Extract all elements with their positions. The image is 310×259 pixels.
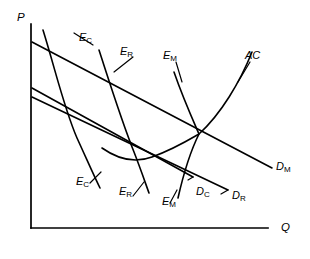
demand-curve-dc (32, 88, 193, 177)
label-dm-right: DM (276, 161, 291, 174)
label-ac-top: AC (245, 50, 260, 63)
leader-ac-top (238, 62, 250, 82)
x-axis-label: Q (281, 222, 290, 234)
label-er-top: ER (120, 46, 133, 59)
label-dc-bottom: DC (196, 186, 210, 199)
label-ec-top: EC (79, 32, 92, 45)
label-em-top: EM (163, 50, 177, 63)
equilibrium-curve-er (99, 50, 149, 193)
label-er-bottom: ER (119, 186, 132, 199)
average-cost-curve (102, 52, 252, 160)
plot-canvas (0, 0, 310, 259)
y-axis-label: P (17, 12, 25, 24)
label-em-bottom: EM (162, 196, 176, 209)
economics-diagram: P Q EC ER EM AC DM DC DR EC ER EM (0, 0, 310, 259)
demand-curve-dm (32, 42, 272, 168)
equilibrium-curve-em (174, 72, 199, 198)
label-dr-bottom: DR (232, 190, 246, 203)
label-ec-bottom: EC (76, 176, 89, 189)
leader-dr-bottom (221, 190, 228, 194)
leader-ec-bottom (90, 172, 101, 183)
leader-dc-bottom (188, 177, 193, 180)
leader-er-bottom (133, 182, 144, 196)
leader-er-top (114, 57, 133, 72)
